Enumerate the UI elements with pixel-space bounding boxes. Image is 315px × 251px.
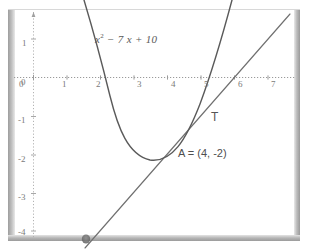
plot-canvas — [0, 0, 315, 251]
y-tick-label-neg1: -1 — [18, 115, 26, 125]
y-tick-label-neg2: -2 — [18, 154, 26, 164]
graph-figure: 0 1 2 3 4 5 6 7 1 0 -1 -2 -3 -4 x2 − 7 x… — [0, 0, 315, 251]
frame-left-border — [8, 9, 15, 241]
x-tick-label-1: 1 — [62, 79, 67, 89]
frame-right-border — [294, 9, 300, 241]
x-tick-label-2: 2 — [96, 79, 101, 89]
x-tick-label-4: 4 — [171, 79, 176, 89]
y-tick-label-neg3: -3 — [18, 192, 26, 202]
curve-formula-label: x2 − 7 x + 10 — [95, 33, 157, 45]
point-a-label: A = (4, -2) — [178, 147, 227, 159]
y-tick-label-0: 0 — [21, 77, 26, 87]
y-tick-label-neg4: -4 — [18, 227, 26, 237]
frame-bottom-border — [8, 235, 300, 241]
tangent-endpoint-marker — [82, 234, 90, 243]
curve-formula-remainder: − 7 x + 10 — [104, 33, 157, 45]
x-tick-label-5: 5 — [204, 79, 209, 89]
x-tick-label-3: 3 — [137, 79, 142, 89]
x-tick-label-6: 6 — [238, 79, 243, 89]
y-tick-label-1: 1 — [22, 38, 27, 48]
tangent-line-label: T — [211, 110, 218, 124]
x-tick-label-7: 7 — [271, 79, 276, 89]
